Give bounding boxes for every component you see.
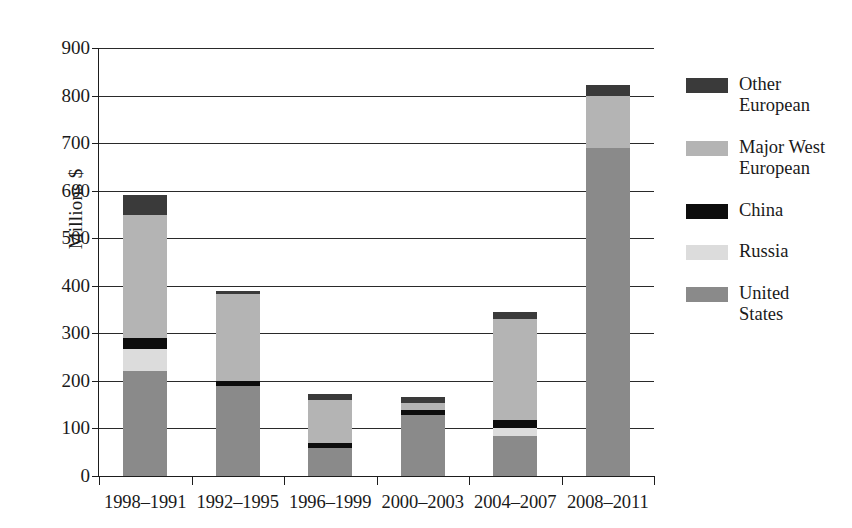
bar-1992–1995[interactable] (216, 291, 260, 476)
bar-segment-other-european[interactable] (123, 195, 167, 215)
y-tick-mark (92, 96, 99, 97)
legend-item-major-west-european[interactable]: Major West European (686, 137, 852, 180)
legend-label: Major West European (739, 137, 825, 180)
legend-item-russia[interactable]: Russia (686, 241, 852, 262)
y-tick-label: 800 (62, 86, 91, 105)
legend-swatch-icon (686, 78, 728, 93)
bar-segment-united-states[interactable] (586, 148, 630, 476)
bar-segment-other-european[interactable] (216, 291, 260, 295)
bar-segment-united-states[interactable] (308, 448, 352, 476)
bar-segment-other-european[interactable] (401, 397, 445, 403)
bar-segment-major-west-european[interactable] (401, 403, 445, 411)
gridline (99, 286, 654, 287)
legend-swatch-icon (686, 245, 728, 260)
bar-segment-major-west-european[interactable] (123, 215, 167, 338)
bar-2004–2007[interactable] (493, 312, 537, 476)
x-tick-label: 2004–2007 (474, 492, 556, 513)
legend-label: Other European (739, 74, 810, 117)
gridline (99, 381, 654, 382)
bar-segment-china[interactable] (493, 420, 537, 429)
gridline (99, 96, 654, 97)
gridline (99, 238, 654, 239)
x-tick-label: 1998–1991 (104, 492, 186, 513)
y-tick-mark (92, 476, 99, 477)
bar-segment-major-west-european[interactable] (216, 294, 260, 381)
y-tick-label: 600 (62, 181, 91, 200)
legend-swatch-icon (686, 141, 728, 156)
bar-segment-major-west-european[interactable] (493, 319, 537, 420)
y-tick-label: 100 (62, 419, 91, 438)
bar-segment-major-west-european[interactable] (308, 400, 352, 443)
y-tick-mark (92, 238, 99, 239)
y-tick-label: 0 (81, 466, 91, 485)
x-tick-mark (562, 476, 563, 485)
y-tick-mark (92, 428, 99, 429)
bar-segment-russia[interactable] (123, 349, 167, 372)
bar-segment-china[interactable] (308, 443, 352, 449)
legend-item-china[interactable]: China (686, 200, 852, 221)
y-tick-mark (92, 381, 99, 382)
bar-1996–1999[interactable] (308, 394, 352, 476)
y-tick-mark (92, 191, 99, 192)
y-axis-title: Millions $ (65, 139, 87, 279)
bar-segment-united-states[interactable] (216, 386, 260, 476)
y-tick-mark (92, 143, 99, 144)
bar-segment-other-european[interactable] (308, 394, 352, 400)
stacked-bar-chart: Millions $ 90080070060050040030020010001… (0, 0, 852, 528)
x-tick-mark (377, 476, 378, 485)
legend-label: Russia (739, 241, 788, 262)
bar-segment-united-states[interactable] (401, 415, 445, 476)
y-tick-mark (92, 333, 99, 334)
bar-segment-russia[interactable] (493, 428, 537, 435)
bar-segment-china[interactable] (401, 410, 445, 415)
x-tick-mark (192, 476, 193, 485)
y-tick-mark (92, 48, 99, 49)
legend-label: United States (739, 283, 789, 326)
bar-segment-united-states[interactable] (123, 371, 167, 476)
bar-segment-major-west-european[interactable] (586, 96, 630, 148)
legend-item-united-states[interactable]: United States (686, 283, 852, 326)
gridline (99, 48, 654, 49)
bar-segment-china[interactable] (123, 338, 167, 348)
y-tick-mark (92, 286, 99, 287)
bar-segment-other-european[interactable] (493, 312, 537, 319)
chart-legend: Other EuropeanMajor West EuropeanChinaRu… (686, 74, 852, 346)
x-tick-label: 2000–2003 (382, 492, 464, 513)
x-tick-mark (654, 476, 655, 485)
bar-segment-united-states[interactable] (493, 436, 537, 476)
x-tick-mark (99, 476, 100, 485)
legend-swatch-icon (686, 204, 728, 219)
gridline (99, 143, 654, 144)
y-tick-label: 500 (62, 228, 91, 247)
bar-segment-china[interactable] (216, 381, 260, 386)
y-tick-label: 700 (62, 133, 91, 152)
x-tick-mark (284, 476, 285, 485)
y-tick-label: 900 (62, 38, 91, 57)
x-tick-label: 1996–1999 (289, 492, 371, 513)
gridline (99, 333, 654, 334)
legend-label: China (739, 200, 783, 221)
gridline (99, 428, 654, 429)
y-tick-label: 300 (62, 323, 91, 342)
x-tick-mark (469, 476, 470, 485)
legend-swatch-icon (686, 287, 728, 302)
legend-item-other-european[interactable]: Other European (686, 74, 852, 117)
bar-segment-other-european[interactable] (586, 85, 630, 95)
y-tick-label: 400 (62, 276, 91, 295)
bar-1998–1991[interactable] (123, 195, 167, 476)
bar-2008–2011[interactable] (586, 85, 630, 476)
x-tick-label: 1992–1995 (197, 492, 279, 513)
gridline (99, 191, 654, 192)
x-tick-label: 2008–2011 (567, 492, 649, 513)
y-tick-label: 200 (62, 371, 91, 390)
bar-2000–2003[interactable] (401, 397, 445, 476)
plot-area: 90080070060050040030020010001998–1991199… (98, 48, 654, 477)
